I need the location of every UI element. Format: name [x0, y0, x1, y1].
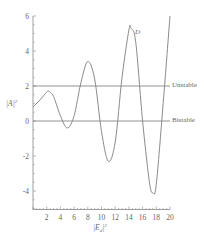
curve-label-D: D [134, 28, 140, 36]
x-tick-label: 6 [72, 213, 76, 222]
y-tick-label: 6 [25, 12, 29, 21]
x-tick-label: 16 [139, 213, 147, 222]
x-axis-title: |Ed|2 [93, 223, 107, 233]
y-axis-title-sup: 2 [15, 99, 18, 104]
x-tick-label: 10 [98, 213, 106, 222]
x-tick-label: 20 [166, 213, 174, 222]
x-tick-label: 12 [111, 213, 119, 222]
y-tick-label: 2 [25, 82, 29, 91]
x-axis-title-sup: 2 [104, 223, 107, 228]
curve-D [33, 16, 170, 194]
x-tick-label: 2 [45, 213, 49, 222]
y-axis: -4-20246 [23, 12, 36, 210]
x-axis: 2468101214161820 [33, 207, 174, 222]
reference-lines: UnstableBistable [33, 81, 197, 124]
y-axis-title: |A|2 [6, 99, 18, 108]
chart: -4-20246 2468101214161820 UnstableBistab… [0, 0, 204, 240]
reference-label-unstable: Unstable [172, 81, 197, 89]
y-axis-title-main: |A| [6, 99, 15, 108]
x-tick-label: 18 [153, 213, 161, 222]
y-tick-label: 4 [25, 47, 29, 56]
y-tick-label: -2 [23, 152, 29, 161]
y-tick-label: 0 [25, 117, 29, 126]
reference-label-bistable: Bistable [172, 116, 195, 124]
x-tick-label: 14 [125, 213, 133, 222]
x-tick-label: 8 [86, 213, 90, 222]
y-tick-label: -4 [23, 187, 29, 196]
x-tick-label: 4 [59, 213, 63, 222]
